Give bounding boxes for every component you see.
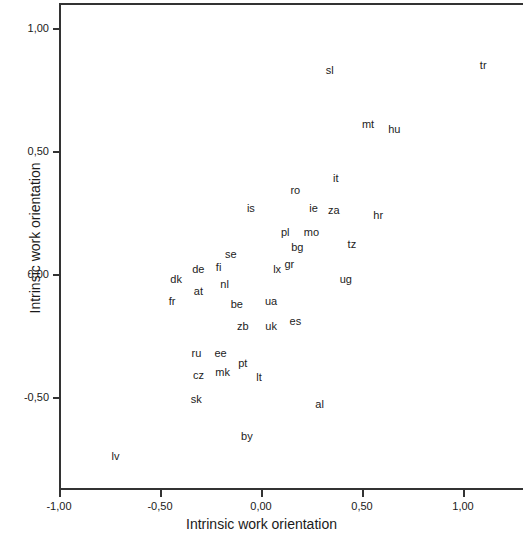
x-axis-title: Intrinsic work orientation (0, 516, 523, 532)
data-point-label-ua: ua (265, 296, 277, 307)
y-tick-label: 0,50 (5, 145, 49, 157)
data-point-label-zb: zb (237, 320, 249, 331)
data-point-label-fi: fi (216, 261, 222, 272)
data-point-label-at: at (194, 286, 203, 297)
data-point-label-be: be (231, 298, 243, 309)
x-tick-mark (463, 490, 465, 497)
x-tick-mark (362, 490, 364, 497)
data-point-label-hr: hr (373, 209, 383, 220)
data-point-label-uk: uk (265, 320, 277, 331)
x-tick-mark (59, 490, 61, 497)
data-point-label-is: is (247, 202, 255, 213)
data-point-label-se: se (225, 249, 237, 260)
data-point-label-by: by (241, 431, 253, 442)
data-point-label-cz: cz (193, 369, 204, 380)
data-point-label-gr: gr (284, 259, 294, 270)
scatter-plot-figure: Intrinsic work orientation 1,000,500,00-… (0, 0, 523, 538)
x-tick-label: 0,50 (332, 500, 392, 512)
x-tick-label: -0,50 (130, 500, 190, 512)
x-tick-label: 0,00 (231, 500, 291, 512)
data-point-label-pl: pl (281, 227, 290, 238)
data-point-label-bg: bg (291, 241, 303, 252)
data-point-label-mk: mk (215, 367, 230, 378)
data-point-label-fr: fr (169, 296, 176, 307)
y-tick-label: 1,00 (5, 22, 49, 34)
data-point-label-ee: ee (214, 347, 226, 358)
data-point-label-za: za (328, 205, 340, 216)
plot-data-area: sltrmthuitroisiezahrplmobgtzsefigrlxdedk… (59, 3, 523, 490)
x-tick-mark (160, 490, 162, 497)
data-point-label-sl: sl (326, 64, 334, 75)
data-point-label-nl: nl (220, 278, 229, 289)
y-axis-title: Intrinsic work orientation (27, 98, 43, 378)
y-tick-label: 0,00 (5, 268, 49, 280)
data-point-label-al: al (315, 399, 324, 410)
data-point-label-lv: lv (112, 451, 120, 462)
data-point-label-es: es (290, 315, 302, 326)
data-point-label-lt: lt (256, 372, 262, 383)
data-point-label-hu: hu (388, 123, 400, 134)
data-point-label-mt: mt (362, 118, 374, 129)
data-point-label-it: it (333, 173, 339, 184)
data-point-label-tz: tz (348, 239, 357, 250)
data-point-label-ug: ug (340, 273, 352, 284)
x-tick-label: -1,00 (29, 500, 89, 512)
data-point-label-dk: dk (170, 273, 182, 284)
data-point-label-mo: mo (304, 227, 319, 238)
data-point-label-ro: ro (290, 185, 300, 196)
data-point-label-de: de (192, 264, 204, 275)
y-tick-label: -0,50 (5, 391, 49, 403)
data-point-label-ie: ie (309, 202, 318, 213)
data-point-label-ru: ru (191, 347, 201, 358)
x-tick-label: 1,00 (433, 500, 493, 512)
data-point-label-sk: sk (191, 394, 202, 405)
data-point-label-lx: lx (273, 264, 281, 275)
data-point-label-tr: tr (480, 59, 487, 70)
x-tick-mark (261, 490, 263, 497)
data-point-label-pt: pt (238, 357, 247, 368)
